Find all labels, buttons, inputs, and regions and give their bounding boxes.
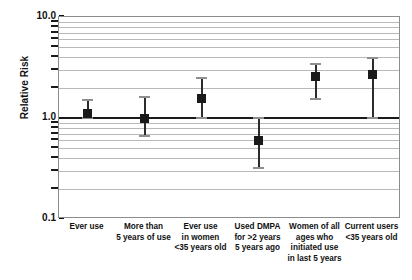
gridline-minor: [59, 171, 399, 172]
y-axis-minor-tick: [51, 169, 58, 171]
data-point-marker[interactable]: [140, 114, 149, 123]
y-axis-minor-tick: [51, 25, 58, 27]
y-axis-minor-tick: [51, 187, 58, 189]
y-axis-minor-tick: [51, 138, 58, 140]
gridline-minor: [59, 47, 399, 48]
gridline-minor: [59, 22, 399, 23]
y-axis-minor-tick: [51, 20, 58, 22]
gridline-minor: [59, 27, 399, 28]
y-axis-ticks: 10.01.00.1: [12, 0, 56, 280]
x-axis-category-label: Current users<35 years old: [343, 222, 400, 243]
gridline-minor: [59, 39, 399, 40]
gridline-minor: [59, 57, 399, 58]
error-bar-cap-lower: [196, 117, 207, 119]
gridline-minor: [59, 123, 399, 124]
error-bar-cap-upper: [82, 99, 93, 101]
error-bar-cap-upper: [196, 77, 207, 79]
gridline-minor: [59, 88, 399, 89]
gridline-minor: [59, 189, 399, 190]
x-axis-category-label: Used DMPAfor >2 years5 years ago: [229, 222, 286, 254]
y-axis-minor-tick: [51, 31, 58, 33]
error-bar-line: [315, 64, 317, 98]
error-bar-cap-lower: [367, 117, 378, 119]
error-bar-cap-upper: [310, 63, 321, 65]
chart-figure: Relative Risk 10.01.00.1 Ever useMore th…: [0, 0, 412, 280]
error-bar-cap-lower: [253, 167, 264, 169]
y-axis-minor-tick: [51, 86, 58, 88]
gridline-minor: [59, 140, 399, 141]
gridline-minor: [59, 134, 399, 135]
error-bar-line: [372, 58, 374, 118]
gridline-minor: [59, 70, 399, 71]
error-bar-cap-upper: [367, 57, 378, 59]
x-axis-category-label: More than5 years of use: [115, 222, 172, 243]
data-point-marker[interactable]: [368, 70, 377, 79]
y-axis-minor-tick: [51, 132, 58, 134]
y-axis-minor-tick: [51, 68, 58, 70]
gridline-minor: [59, 148, 399, 149]
reference-line: [59, 117, 399, 119]
y-axis-minor-tick: [51, 121, 58, 123]
x-axis-category-labels: Ever useMore than5 years of useEver usei…: [58, 222, 400, 278]
x-axis-category-label: Ever usein women<35 years old: [172, 222, 229, 254]
error-bar-cap-lower: [139, 135, 150, 137]
data-point-marker[interactable]: [197, 94, 206, 103]
error-bar-cap-lower: [310, 98, 321, 100]
error-bar-cap-upper: [139, 96, 150, 98]
x-axis-category-label: Women of allages whoinitiated usein last…: [286, 222, 343, 264]
data-point-marker[interactable]: [254, 136, 263, 145]
y-axis-tick-label: 1.0: [16, 111, 56, 122]
y-axis-minor-tick: [51, 45, 58, 47]
gridline-minor: [59, 33, 399, 34]
plot-area: [58, 16, 400, 218]
y-axis-tick-label: 0.1: [16, 212, 56, 223]
y-axis-minor-tick: [51, 55, 58, 57]
gridline-minor: [59, 128, 399, 129]
y-axis-minor-tick: [51, 146, 58, 148]
y-axis-tick-label: 10.0: [16, 10, 56, 21]
x-axis-category-label: Ever use: [58, 222, 115, 233]
data-point-marker[interactable]: [83, 109, 92, 118]
error-bar-cap-upper: [253, 117, 264, 119]
gridline-minor: [59, 158, 399, 159]
y-axis-minor-tick: [51, 126, 58, 128]
data-point-marker[interactable]: [311, 72, 320, 81]
y-axis-minor-tick: [51, 37, 58, 39]
y-axis-minor-tick: [51, 156, 58, 158]
